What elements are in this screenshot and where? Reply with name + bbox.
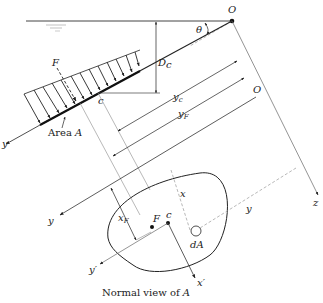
y-axis-side-label: y [1,138,8,149]
pressure-distribution [24,50,140,123]
da-label: dA [190,239,204,250]
force-point-icon [150,225,154,229]
z-axis [232,21,318,195]
x-prime-label: x′ [197,277,206,288]
y-distance-line [200,168,296,228]
diagram-svg: O θ y F Area A Dc c z yc [0,0,323,303]
da-element-icon [191,226,201,236]
yc-label: yc [172,91,183,104]
yf-label: yF [177,108,190,121]
area-label: Area A [47,127,82,138]
y-axis-lower-label: y [47,215,54,226]
depth-centroid-label: Dc [157,57,172,70]
plate-area-a [40,71,140,125]
y-distance-label: y [245,203,252,214]
y-axis-side [6,125,40,144]
theta-arc-icon [205,23,208,34]
centroid-side-label: c [98,95,104,106]
force-label: F [51,57,60,68]
hydrostatic-diagram: O θ y F Area A Dc c z yc [0,0,323,303]
z-axis-label: z [312,197,319,208]
centroid-point-label: c [166,209,172,220]
origin-top-label: O [228,4,236,15]
centroid-projection-line [98,93,150,190]
x-distance-line [171,170,190,230]
xf-extension [136,232,151,240]
y-prime-label: y′ [88,264,98,275]
force-point-label: F [152,213,161,224]
figure-caption: Normal view of A [102,287,190,298]
x-distance-label: x [180,188,186,199]
theta-label: θ [196,24,202,35]
origin-side-label: O [253,84,261,95]
